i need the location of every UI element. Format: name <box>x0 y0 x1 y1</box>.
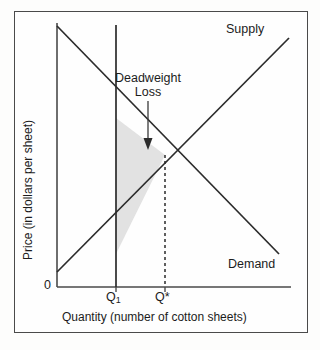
supply-curve-label: Supply <box>226 22 264 36</box>
deadweight-loss-label-line2: Loss <box>112 86 184 100</box>
q1-tick-label: Q1 <box>106 290 121 304</box>
deadweight-loss-chart: Supply Demand Deadweight Loss 0 Q1 Q* Qu… <box>0 0 320 350</box>
origin-label: 0 <box>44 278 51 292</box>
q1-tick-label-text: Q <box>106 290 116 304</box>
q1-tick-label-sub: 1 <box>116 295 121 305</box>
deadweight-loss-region <box>116 118 165 254</box>
demand-curve <box>57 26 279 254</box>
demand-curve-label: Demand <box>228 257 275 271</box>
deadweight-loss-label: Deadweight Loss <box>112 72 184 99</box>
y-axis-label: Price (in dollars per sheet) <box>21 100 35 280</box>
deadweight-loss-label-line1: Deadweight <box>115 71 181 85</box>
qstar-tick-label: Q* <box>155 290 170 304</box>
x-axis-label: Quantity (number of cotton sheets) <box>62 310 247 324</box>
